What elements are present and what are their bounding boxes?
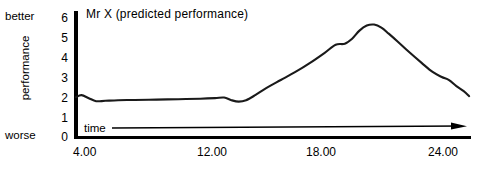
chart-plot-area [0,0,485,170]
data-series-line [76,24,469,101]
time-arrow-line [112,126,462,128]
chart-container: Mr X (predicted performance) better wors… [0,0,485,170]
arrow-right-icon [451,123,467,130]
